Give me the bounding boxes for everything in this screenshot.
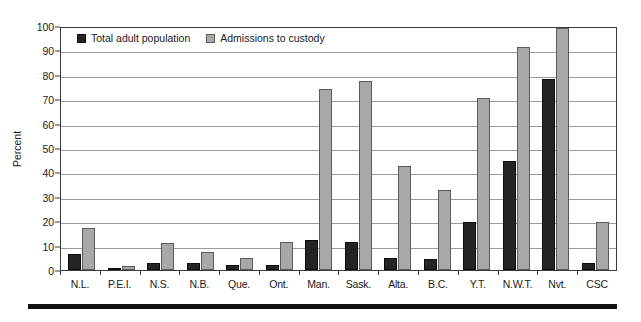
x-axis-item: P.E.I. bbox=[100, 271, 140, 297]
bar-group bbox=[260, 29, 300, 270]
bar bbox=[582, 263, 595, 270]
bar bbox=[463, 222, 476, 270]
bar-group bbox=[339, 29, 379, 270]
bar-group bbox=[62, 29, 102, 270]
x-tick-mark bbox=[338, 271, 339, 275]
bar bbox=[384, 258, 397, 270]
bar-group bbox=[378, 29, 418, 270]
y-axis: Percent 1009080706050403020100 bbox=[0, 27, 60, 271]
bar bbox=[517, 47, 530, 270]
x-axis: N.L.P.E.I.N.S.N.B.Que.Ont.Man.Sask.Alta.… bbox=[60, 271, 617, 297]
bar-group bbox=[418, 29, 458, 270]
x-tick-label: Man. bbox=[299, 278, 339, 290]
bar bbox=[438, 190, 451, 270]
x-tick-mark bbox=[418, 271, 419, 275]
y-tick-label: 70 bbox=[43, 94, 54, 106]
y-tick-label: 50 bbox=[43, 143, 54, 155]
bar bbox=[108, 268, 121, 270]
y-tick-label: 30 bbox=[43, 192, 54, 204]
bar-group bbox=[457, 29, 497, 270]
y-tick-label: 20 bbox=[43, 216, 54, 228]
x-tick-mark bbox=[498, 271, 499, 275]
x-tick-label: Nvt. bbox=[537, 278, 577, 290]
y-tick-label: 100 bbox=[37, 21, 54, 33]
x-axis-item: Sask. bbox=[338, 271, 378, 297]
x-tick-label: Alta. bbox=[378, 278, 418, 290]
bar bbox=[68, 254, 81, 270]
bar bbox=[345, 242, 358, 270]
bar bbox=[240, 258, 253, 270]
x-tick-label: N.S. bbox=[140, 278, 180, 290]
bar-group bbox=[299, 29, 339, 270]
y-tick-label: 40 bbox=[43, 167, 54, 179]
bar bbox=[596, 222, 609, 270]
x-tick-label: Que. bbox=[219, 278, 259, 290]
bar-group bbox=[220, 29, 260, 270]
bar bbox=[82, 228, 95, 270]
bar bbox=[226, 265, 239, 270]
x-tick-mark bbox=[299, 271, 300, 275]
x-tick-mark bbox=[100, 271, 101, 275]
dark-swatch-icon bbox=[77, 34, 86, 43]
chart-page: Percent 1009080706050403020100 Total adu… bbox=[0, 0, 641, 322]
x-tick-label: CSC bbox=[577, 278, 617, 290]
x-axis-item: N.W.T. bbox=[498, 271, 538, 297]
bar bbox=[542, 79, 555, 270]
x-tick-label: P.E.I. bbox=[100, 278, 140, 290]
bar bbox=[556, 28, 569, 270]
x-tick-mark bbox=[179, 271, 180, 275]
chart-legend: Total adult population Admissions to cus… bbox=[74, 31, 328, 45]
bar-group bbox=[576, 29, 616, 270]
x-tick-label: Ont. bbox=[259, 278, 299, 290]
bar-groups bbox=[62, 29, 615, 270]
x-axis-item: Y.T. bbox=[458, 271, 498, 297]
bar bbox=[187, 263, 200, 270]
bar bbox=[398, 166, 411, 270]
bottom-divider bbox=[28, 304, 617, 309]
x-tick-label: B.C. bbox=[418, 278, 458, 290]
y-tick-label: 80 bbox=[43, 70, 54, 82]
legend-label-admissions-to-custody: Admissions to custody bbox=[220, 32, 324, 44]
x-axis-item: N.S. bbox=[140, 271, 180, 297]
legend-entry-admissions-to-custody: Admissions to custody bbox=[206, 32, 324, 44]
bar bbox=[147, 263, 160, 270]
bar bbox=[201, 252, 214, 270]
y-tick-label: 0 bbox=[48, 265, 54, 277]
bar bbox=[477, 98, 490, 270]
x-tick-label: Sask. bbox=[338, 278, 378, 290]
bar-group bbox=[536, 29, 576, 270]
bar bbox=[161, 243, 174, 270]
x-tick-mark bbox=[259, 271, 260, 275]
bar bbox=[319, 89, 332, 271]
x-tick-mark bbox=[458, 271, 459, 275]
x-axis-item: Que. bbox=[219, 271, 259, 297]
x-tick-mark bbox=[60, 271, 61, 275]
y-axis-title: Percent bbox=[11, 104, 23, 194]
bar bbox=[280, 242, 293, 270]
y-tick-label: 60 bbox=[43, 119, 54, 131]
legend-entry-total-adult-population: Total adult population bbox=[77, 32, 190, 44]
bar-group bbox=[102, 29, 142, 270]
legend-label-total-adult-population: Total adult population bbox=[91, 32, 190, 44]
y-tick-label: 90 bbox=[43, 45, 54, 57]
x-tick-mark bbox=[537, 271, 538, 275]
x-axis-item: B.C. bbox=[418, 271, 458, 297]
x-tick-mark bbox=[140, 271, 141, 275]
x-tick-label: Y.T. bbox=[458, 278, 498, 290]
x-tick-mark bbox=[219, 271, 220, 275]
bar bbox=[359, 81, 372, 270]
x-axis-item: Nvt. bbox=[537, 271, 577, 297]
bar bbox=[305, 240, 318, 270]
bar bbox=[122, 266, 135, 270]
x-axis-item: N.B. bbox=[179, 271, 219, 297]
x-axis-item: Alta. bbox=[378, 271, 418, 297]
bar bbox=[503, 161, 516, 270]
bar-group bbox=[141, 29, 181, 270]
x-axis-item: Man. bbox=[299, 271, 339, 297]
x-tick-mark bbox=[577, 271, 578, 275]
x-axis-item: CSC bbox=[577, 271, 617, 297]
bar-group bbox=[497, 29, 537, 270]
x-tick-label: N.W.T. bbox=[498, 278, 538, 290]
bar bbox=[424, 259, 437, 270]
y-tick-label: 10 bbox=[43, 241, 54, 253]
